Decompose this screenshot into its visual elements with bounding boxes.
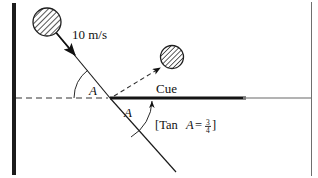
speed-label: 10 m/s [72, 27, 107, 42]
angle-label-upper: A [88, 83, 97, 98]
angle-label-lower: A [123, 105, 132, 120]
tangent-formula: [Tan A = 3 4 ] [155, 118, 216, 135]
physics-diagram-figure: 10 m/s Cue A A [Tan A = 3 4 ] [0, 0, 318, 178]
angle-arc-lower [131, 101, 152, 137]
formula-variable-a: A [185, 118, 194, 132]
cue-label: Cue [156, 81, 177, 96]
angle-arc-upper [74, 70, 88, 98]
formula-open-bracket: [Tan [155, 118, 178, 132]
formula-close-bracket: ] [212, 118, 216, 132]
struck-ball-dashed-arrow [114, 68, 160, 96]
formula-equals-sign: = [195, 118, 202, 132]
formula-denominator: 4 [206, 126, 210, 135]
cue-ball-incoming [33, 8, 61, 36]
cushion-wall [12, 3, 16, 175]
object-ball-struck [161, 46, 184, 69]
diagram-canvas: 10 m/s Cue A A [Tan A = 3 4 ] [0, 0, 318, 178]
outgoing-trajectory-line [110, 98, 176, 172]
